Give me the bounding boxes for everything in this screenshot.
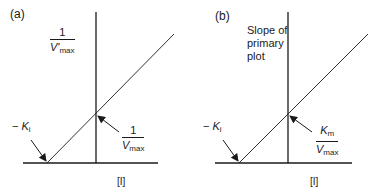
panel-a-x-intercept-label: − Ki [12, 120, 31, 136]
panel-b-label: (b) [215, 10, 230, 22]
y-axis-denominator: V'max [50, 40, 75, 57]
panel-a-y-intercept-arrow [98, 116, 119, 132]
panel-b-x-axis-label: [I] [310, 176, 318, 188]
panel-b-x-intercept-label: − Ki [203, 120, 222, 136]
panel-b-y-axis-label: Slope of primary plot [247, 24, 287, 63]
y-axis-numerator: 1 [57, 26, 67, 39]
panel-b-plot [215, 12, 368, 163]
panel-a-y-intercept-label: 1 Vmax [122, 124, 144, 155]
panel-a-y-axis-label: 1 V'max [50, 26, 75, 57]
panel-a-x-intercept-arrow [31, 140, 46, 161]
panel-b-y-intercept-arrow [290, 116, 312, 132]
panel-a-plot [23, 12, 174, 163]
panel-a-label: (a) [10, 8, 25, 20]
panel-a-x-axis-label: [I] [117, 176, 125, 188]
panel-b-y-intercept-label: Km Vmax [316, 124, 338, 159]
panel-b-x-intercept-arrow [223, 140, 238, 161]
